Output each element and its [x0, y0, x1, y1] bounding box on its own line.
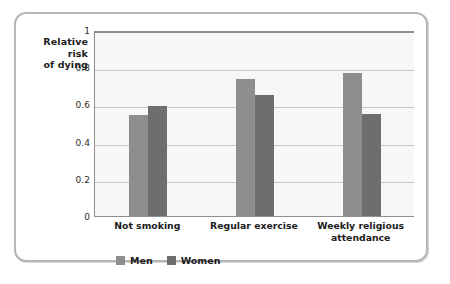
bar-group — [95, 33, 202, 216]
bar-group — [308, 33, 415, 216]
y-axis-tick-labels: 00.20.40.60.81 — [68, 31, 90, 217]
category-label-line: Regular exercise — [201, 220, 308, 232]
figure-frame: Relativeriskof dying 00.20.40.60.81 Not … — [14, 12, 428, 262]
y-axis-tick-label: 0.2 — [68, 175, 90, 185]
category-label-line: Not smoking — [94, 220, 201, 232]
category-label: Regular exercise — [201, 220, 308, 232]
y-axis-tick-label: 0.6 — [68, 100, 90, 110]
legend-item-men[interactable]: Men — [116, 255, 153, 266]
bars-layer — [95, 33, 414, 216]
bar-women-regular-exercise[interactable] — [255, 95, 274, 216]
category-label: Not smoking — [94, 220, 201, 232]
bar-women-weekly-religious-attendance[interactable] — [362, 114, 381, 216]
y-axis-tick-label: 0.8 — [68, 63, 90, 73]
category-label: Weekly religiousattendance — [307, 220, 414, 243]
legend-label: Men — [130, 255, 153, 266]
legend: MenWomen — [116, 255, 220, 266]
legend-label: Women — [181, 255, 221, 266]
bar-men-regular-exercise[interactable] — [236, 79, 255, 216]
bar-men-weekly-religious-attendance[interactable] — [343, 73, 362, 216]
category-label-line: Weekly religious — [307, 220, 414, 232]
category-label-line: attendance — [307, 232, 414, 244]
bar-women-not-smoking[interactable] — [148, 106, 167, 216]
bar-men-not-smoking[interactable] — [129, 115, 148, 216]
legend-swatch-women — [167, 256, 176, 265]
legend-swatch-men — [116, 256, 125, 265]
y-axis-tick-label: 0.4 — [68, 138, 90, 148]
y-axis-tick-label: 1 — [68, 26, 90, 36]
plot-area — [94, 31, 414, 217]
legend-item-women[interactable]: Women — [167, 255, 221, 266]
plot-wrapper: 00.20.40.60.81 — [94, 31, 414, 217]
x-axis-category-labels: Not smokingRegular exerciseWeekly religi… — [94, 220, 414, 254]
bar-group — [202, 33, 309, 216]
y-axis-tick-label: 0 — [68, 212, 90, 222]
